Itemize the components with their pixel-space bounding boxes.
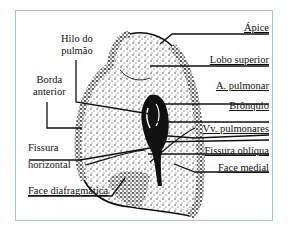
label-face-diafragmatica: Face diafragmática (28, 185, 108, 197)
lung-illustration (0, 0, 293, 242)
label-fissura-horizontal: Fissura horizontal (28, 142, 71, 171)
label-bronquio: Brônquio (229, 100, 269, 112)
label-fissura-obliqua: Fissura oblíqua (205, 145, 269, 157)
label-arteria-pulmonar: A. pulmonar (216, 80, 269, 92)
label-borda-anterior: Borda anterior (33, 74, 66, 98)
label-veias-pulmonares: Vv. pulmonares (203, 123, 269, 135)
label-apice: Ápice (244, 22, 269, 34)
label-lobo-superior: Lobo superior (210, 54, 269, 66)
label-hilo-do-pulmao: Hilo do pulmão (61, 33, 93, 57)
label-face-medial: Face medial (218, 162, 269, 174)
